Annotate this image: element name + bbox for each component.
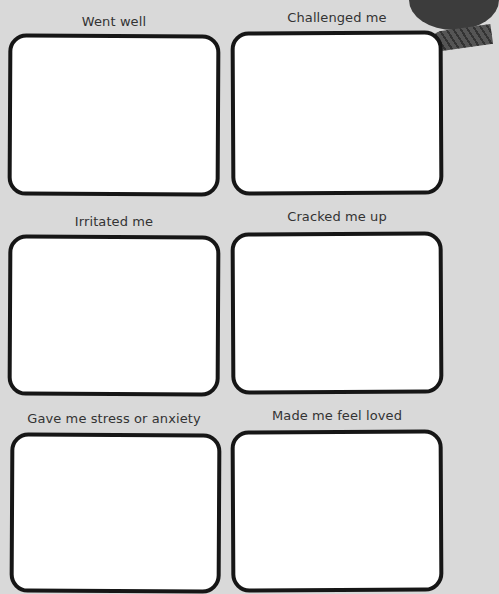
section-went-well: Went well [8, 0, 220, 200]
response-box-irritated-me[interactable] [8, 234, 221, 396]
section-challenged-me: Challenged me [231, 0, 443, 200]
section-cracked-me-up: Cracked me up [231, 200, 443, 400]
section-label: Made me feel loved [231, 408, 443, 423]
section-felt-loved: Made me feel loved [231, 400, 443, 594]
response-box-challenged-me[interactable] [231, 30, 444, 195]
section-label: Challenged me [231, 10, 443, 25]
response-box-felt-loved[interactable] [231, 429, 444, 592]
section-label: Gave me stress or anxiety [8, 411, 220, 426]
section-label: Went well [8, 14, 220, 29]
section-stress-anxiety: Gave me stress or anxiety [8, 400, 220, 594]
response-box-went-well[interactable] [8, 33, 221, 196]
response-box-stress-anxiety[interactable] [10, 432, 222, 593]
response-box-cracked-me-up[interactable] [231, 231, 444, 394]
section-label: Cracked me up [231, 209, 443, 224]
section-irritated-me: Irritated me [8, 200, 220, 400]
section-label: Irritated me [8, 214, 220, 229]
